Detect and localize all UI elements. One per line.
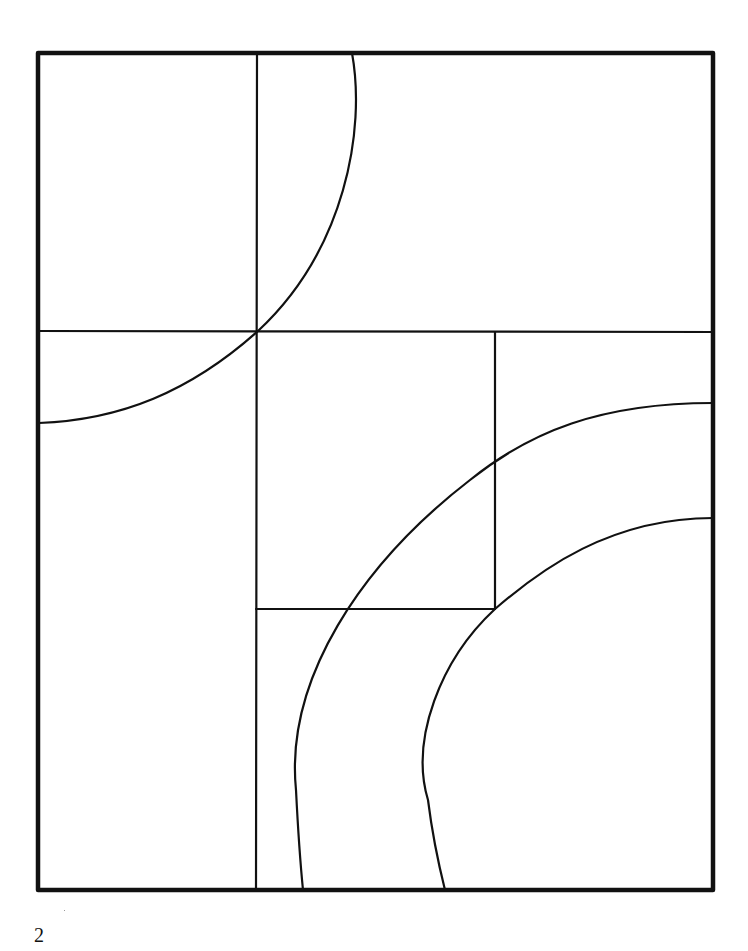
left-vertical-divider bbox=[256, 53, 257, 890]
inner-arc bbox=[423, 518, 713, 890]
line-art-drawing bbox=[0, 0, 748, 951]
outer-frame bbox=[38, 53, 713, 890]
page-number: 2 bbox=[34, 925, 44, 945]
upper-horizontal-divider bbox=[38, 331, 713, 332]
large-outer-arc bbox=[295, 403, 713, 890]
paper-speck bbox=[64, 910, 65, 911]
top-left-arc bbox=[39, 53, 356, 423]
